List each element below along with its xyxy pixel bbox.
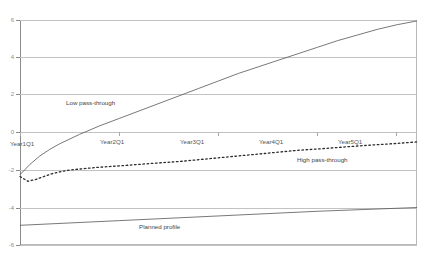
- chart-container: 6 4 2 0 -2 -4 -6 Year1Q1 Year2Q1 Year3Q1…: [0, 0, 432, 258]
- annotation-low-pass-through: Low pass-through: [66, 99, 115, 106]
- annotation-high-pass-through: High pass-through: [297, 156, 348, 163]
- series-lines: [0, 0, 432, 258]
- annotation-planned-profile: Planned profile: [139, 223, 180, 230]
